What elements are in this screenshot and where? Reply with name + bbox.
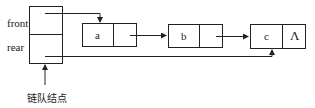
rear-label: rear: [7, 41, 24, 53]
caption: 链队结点: [27, 90, 67, 105]
node-a: [83, 24, 137, 47]
node-b: [169, 25, 223, 48]
null-icon: Λ: [290, 30, 299, 42]
node-a-data: a: [95, 29, 100, 41]
node-b-data: b: [181, 30, 187, 42]
node-c-data: c: [264, 30, 269, 42]
front-label: front: [7, 17, 28, 29]
